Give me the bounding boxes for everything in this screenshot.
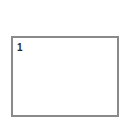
panel-number-label: 1 xyxy=(17,43,23,53)
numbered-panel: 1 xyxy=(11,36,119,117)
